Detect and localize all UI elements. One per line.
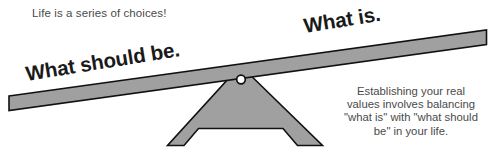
caption-text: Life is a series of choices! (32, 6, 166, 20)
explainer-paragraph: Establishing your real values involves b… (334, 85, 488, 138)
explainer-line-4: be" in your life. (334, 125, 488, 138)
explainer-line-3: "what is" with "what should (334, 111, 488, 124)
pivot-hole (237, 75, 246, 84)
illustration-canvas: Life is a series of choices! What should… (0, 0, 504, 158)
explainer-line-2: values involves balancing (334, 98, 488, 111)
explainer-line-1: Establishing your real (334, 85, 488, 98)
